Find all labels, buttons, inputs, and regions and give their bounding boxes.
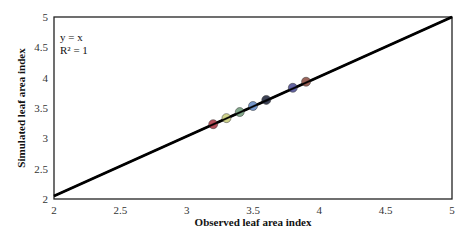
y-axis-ticks: 22.533.544.55 <box>34 11 48 205</box>
y-tick-label: 2.5 <box>34 163 48 175</box>
y-tick-label: 2 <box>43 193 49 205</box>
y-tick-label: 3 <box>43 132 49 144</box>
y-tick-label: 4.5 <box>34 41 48 53</box>
y-tick-label: 3.5 <box>34 102 48 114</box>
r-squared-label: R² = 1 <box>60 44 88 56</box>
x-tick-label: 2.5 <box>113 204 127 216</box>
y-tick-label: 5 <box>43 11 49 23</box>
x-axis-title: Observed leaf area index <box>195 216 312 228</box>
data-points <box>54 17 452 196</box>
x-tick-label: 4.5 <box>379 204 393 216</box>
x-tick-label: 3.5 <box>246 204 260 216</box>
y-tick-label: 4 <box>43 72 49 84</box>
trendline-overlay <box>54 17 452 196</box>
x-axis-ticks: 22.533.544.55 <box>51 204 455 216</box>
y-axis-title: Simulated leaf area index <box>15 48 27 168</box>
scatter-chart: 22.533.544.55 22.533.544.55 y = x R² = 1… <box>0 0 475 237</box>
x-tick-label: 4 <box>317 204 323 216</box>
x-tick-label: 3 <box>184 204 190 216</box>
x-tick-label: 2 <box>51 204 57 216</box>
x-tick-label: 5 <box>449 204 455 216</box>
trendline-equation: y = x <box>60 31 83 43</box>
